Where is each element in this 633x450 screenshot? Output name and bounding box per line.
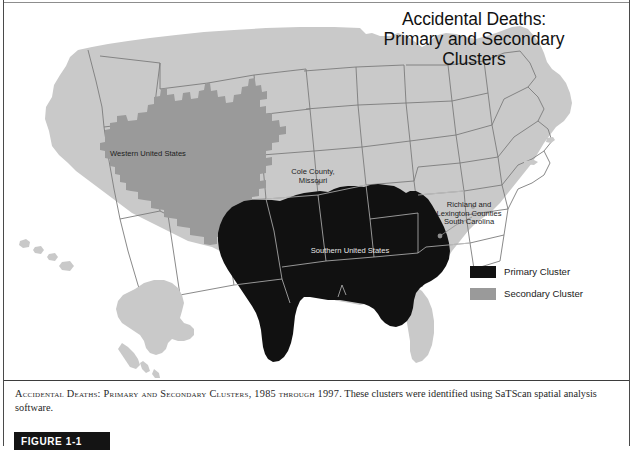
figure-caption-smallcaps-part: Accidental Deaths: Primary and Secondary… [15, 388, 342, 399]
hawaii-inset [19, 239, 74, 271]
hawaii-island-3 [47, 253, 58, 261]
figure-number-label: FIGURE 1-1 [14, 432, 110, 447]
map-panel-bottom-rule [4, 380, 629, 381]
figure-number-tab: FIGURE 1-1 [14, 432, 110, 450]
map-label-southern-united-states: Southern United States [294, 247, 406, 256]
alaska-aleutian-islet-1 [140, 361, 150, 373]
legend-label-secondary-cluster: Secondary Cluster [504, 288, 583, 299]
hawaii-island-4 [59, 261, 74, 271]
map-title-line-2: Primary and Secondary [334, 29, 614, 49]
map-title: Accidental Deaths: Primary and Secondary… [334, 9, 614, 69]
legend-item-primary-cluster[interactable]: Primary Cluster [470, 263, 620, 280]
hawaii-island-1 [19, 239, 30, 248]
figure-caption: Accidental Deaths: Primary and Secondary… [15, 387, 610, 415]
us-cluster-map[interactable]: Accidental Deaths: Primary and Secondary… [4, 3, 629, 380]
map-label-richland-lexington-counties: Richland and Lexington Counties South Ca… [408, 201, 530, 227]
hawaii-island-2 [33, 246, 44, 254]
legend-swatch-primary-cluster [470, 266, 496, 278]
map-label-richland-line-3: South Carolina [408, 218, 530, 227]
map-label-southern-line-1: Southern United States [294, 247, 406, 256]
alaska-aleutian-islet-2 [152, 369, 160, 378]
map-title-line-1: Accidental Deaths: [334, 9, 614, 29]
legend-swatch-secondary-cluster [470, 288, 496, 300]
map-label-western-line-1: Western United States [78, 150, 218, 159]
map-legend: Primary Cluster Secondary Cluster [470, 263, 620, 307]
map-label-cole-line-2: Missouri [257, 177, 369, 186]
legend-label-primary-cluster: Primary Cluster [504, 266, 570, 277]
map-title-line-3: Clusters [334, 49, 614, 69]
map-label-western-united-states: Western United States [78, 150, 218, 159]
alaska-landmass [116, 280, 194, 355]
map-label-cole-county-missouri: Cole County, Missouri [257, 168, 369, 185]
alaska-aleutian-chain [118, 343, 140, 369]
figure-right-rule [629, 0, 630, 446]
legend-item-secondary-cluster[interactable]: Secondary Cluster [470, 285, 620, 302]
